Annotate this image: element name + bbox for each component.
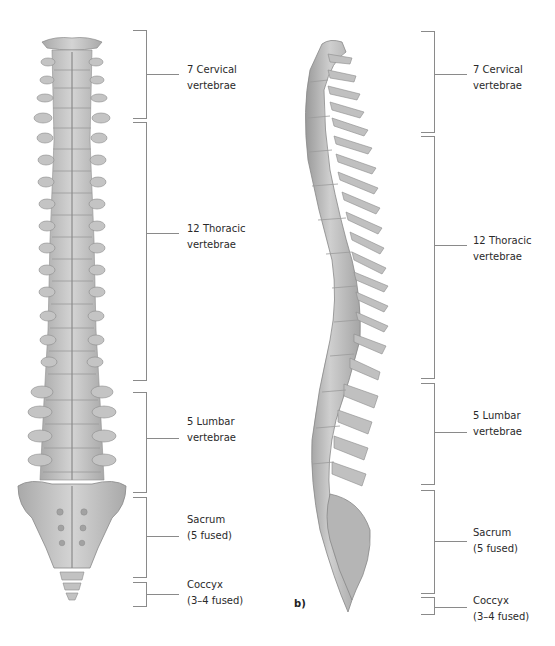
label-line: (5 fused) (187, 528, 232, 544)
bracket-thoracic-a (146, 122, 147, 380)
label-line: Sacrum (187, 512, 232, 528)
label-line: Sacrum (473, 525, 518, 541)
bracket-tick (133, 392, 147, 393)
bracket-sacrum-a (146, 497, 147, 577)
bracket-tick (133, 380, 147, 381)
label-lumbar-b: 5 Lumbar vertebrae (473, 408, 522, 440)
label-cervical-b: 7 Cervical vertebrae (473, 62, 523, 94)
bracket-coccyx-b (434, 597, 435, 614)
bracket-leader (434, 74, 467, 75)
bracket-tick (133, 497, 147, 498)
label-line: vertebrae (187, 78, 237, 94)
label-line: 5 Lumbar (473, 408, 522, 424)
bracket-tick (133, 606, 147, 607)
label-lumbar-a: 5 Lumbar vertebrae (187, 414, 236, 446)
bracket-thoracic-b (434, 136, 435, 378)
bracket-tick (133, 118, 147, 119)
bracket-leader (434, 541, 467, 542)
label-sacrum-a: Sacrum (5 fused) (187, 512, 232, 544)
bracket-tick (421, 136, 435, 137)
label-coccyx-b: Coccyx (3–4 fused) (473, 593, 529, 625)
label-line: 12 Thoracic (187, 221, 245, 237)
label-thoracic-a: 12 Thoracic vertebrae (187, 221, 245, 253)
bracket-leader (146, 594, 179, 595)
bracket-tick (133, 122, 147, 123)
bracket-leader (434, 607, 467, 608)
bracket-leader (146, 233, 179, 234)
spine-lateral-illustration (0, 0, 555, 646)
bracket-leader (434, 432, 467, 433)
bracket-tick (133, 30, 147, 31)
bracket-tick (421, 490, 435, 491)
bracket-cervical-b (434, 31, 435, 132)
bracket-tick (421, 614, 435, 615)
bracket-tick (421, 593, 435, 594)
label-line: (5 fused) (473, 541, 518, 557)
label-coccyx-a: Coccyx (3–4 fused) (187, 577, 243, 609)
bracket-lumbar-a (146, 392, 147, 492)
label-line: Coccyx (473, 593, 529, 609)
bracket-tick (133, 492, 147, 493)
bracket-tick (421, 383, 435, 384)
bracket-tick (421, 132, 435, 133)
label-line: Coccyx (187, 577, 243, 593)
label-line: 12 Thoracic (473, 233, 531, 249)
bracket-leader (434, 245, 467, 246)
label-line: vertebrae (187, 430, 236, 446)
bracket-leader (146, 74, 179, 75)
label-line: vertebrae (473, 424, 522, 440)
label-cervical-a: 7 Cervical vertebrae (187, 62, 237, 94)
bracket-tick (133, 577, 147, 578)
bracket-lumbar-b (434, 383, 435, 484)
label-line: vertebrae (473, 249, 531, 265)
label-line: 7 Cervical (473, 62, 523, 78)
bracket-tick (421, 597, 435, 598)
panel-b-label: b) (294, 598, 306, 609)
label-line: 7 Cervical (187, 62, 237, 78)
bracket-tick (421, 484, 435, 485)
label-thoracic-b: 12 Thoracic vertebrae (473, 233, 531, 265)
bracket-leader (146, 536, 179, 537)
label-line: 5 Lumbar (187, 414, 236, 430)
label-sacrum-b: Sacrum (5 fused) (473, 525, 518, 557)
label-line: (3–4 fused) (187, 593, 243, 609)
bracket-tick (133, 582, 147, 583)
bracket-tick (421, 378, 435, 379)
label-line: vertebrae (473, 78, 523, 94)
bracket-leader (146, 438, 179, 439)
label-line: vertebrae (187, 237, 245, 253)
bracket-tick (421, 31, 435, 32)
label-line: (3–4 fused) (473, 609, 529, 625)
